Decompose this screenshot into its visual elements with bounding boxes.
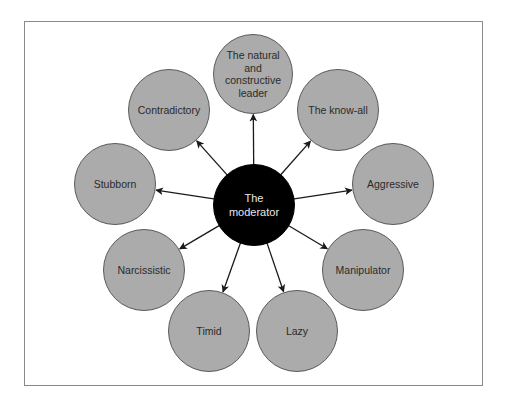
node-moderator-label: Themoderator — [223, 191, 285, 219]
node-leader: The naturalandconstructiveleader — [213, 34, 293, 114]
node-manipulator: Manipulator — [322, 229, 404, 311]
arrow-to-contradictory — [197, 141, 228, 176]
node-contradictory: Contradictory — [128, 69, 210, 151]
arrow-to-know-all — [280, 141, 311, 176]
arrow-to-stubborn — [156, 190, 215, 199]
node-timid-label: Timid — [190, 325, 227, 338]
node-lazy: Lazy — [256, 290, 338, 372]
node-know-all-label: The know-all — [302, 104, 374, 117]
arrow-to-narcissistic — [180, 225, 221, 249]
arrow-to-manipulator — [287, 225, 327, 249]
node-narcissistic: Narcissistic — [103, 229, 185, 311]
node-know-all: The know-all — [297, 69, 379, 151]
arrow-to-timid — [223, 242, 241, 292]
node-aggressive: Aggressive — [352, 143, 434, 225]
node-stubborn-label: Stubborn — [88, 178, 143, 191]
arrow-to-aggressive — [293, 190, 352, 199]
node-leader-label: The naturalandconstructiveleader — [219, 49, 287, 99]
node-timid: Timid — [168, 290, 250, 372]
node-stubborn: Stubborn — [74, 143, 156, 225]
node-aggressive-label: Aggressive — [361, 178, 425, 191]
arrow-to-lazy — [267, 242, 284, 292]
node-manipulator-label: Manipulator — [330, 264, 397, 277]
node-lazy-label: Lazy — [280, 325, 314, 338]
node-contradictory-label: Contradictory — [132, 104, 206, 117]
node-moderator: Themoderator — [213, 164, 295, 246]
node-narcissistic-label: Narcissistic — [111, 264, 176, 277]
